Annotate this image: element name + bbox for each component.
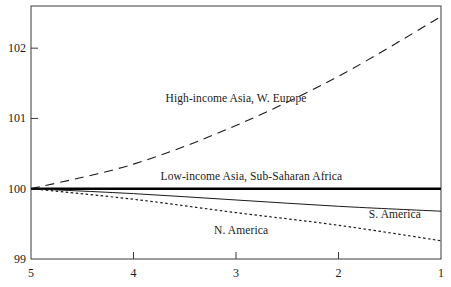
series-annotation-2: Low-income Asia, Sub-Saharan Africa <box>161 171 343 183</box>
y-axis-tick-label: 100 <box>8 183 26 195</box>
axis-ticks <box>31 48 339 259</box>
series-annotation-4: N. America <box>214 225 268 237</box>
x-axis-tick-label: 5 <box>11 267 51 279</box>
x-axis-tick-label: 1 <box>421 267 451 279</box>
y-axis-tick-label: 99 <box>14 253 26 265</box>
x-axis-tick-label: 2 <box>319 267 359 279</box>
data-series <box>31 17 441 241</box>
plot-area <box>0 0 451 287</box>
plot-border <box>31 6 441 259</box>
y-axis-tick-label: 101 <box>8 112 26 124</box>
x-axis-tick-label: 3 <box>216 267 256 279</box>
plot-frame <box>31 6 441 259</box>
series-annotation-3: S. America <box>369 209 421 221</box>
series-annotation-1: High-income Asia, W. Europe <box>166 93 307 105</box>
y-axis-tick-label: 102 <box>8 42 26 54</box>
x-axis-tick-label: 4 <box>114 267 154 279</box>
chart-figure: 10210110099 54321 High-income Asia, W. E… <box>0 0 451 287</box>
